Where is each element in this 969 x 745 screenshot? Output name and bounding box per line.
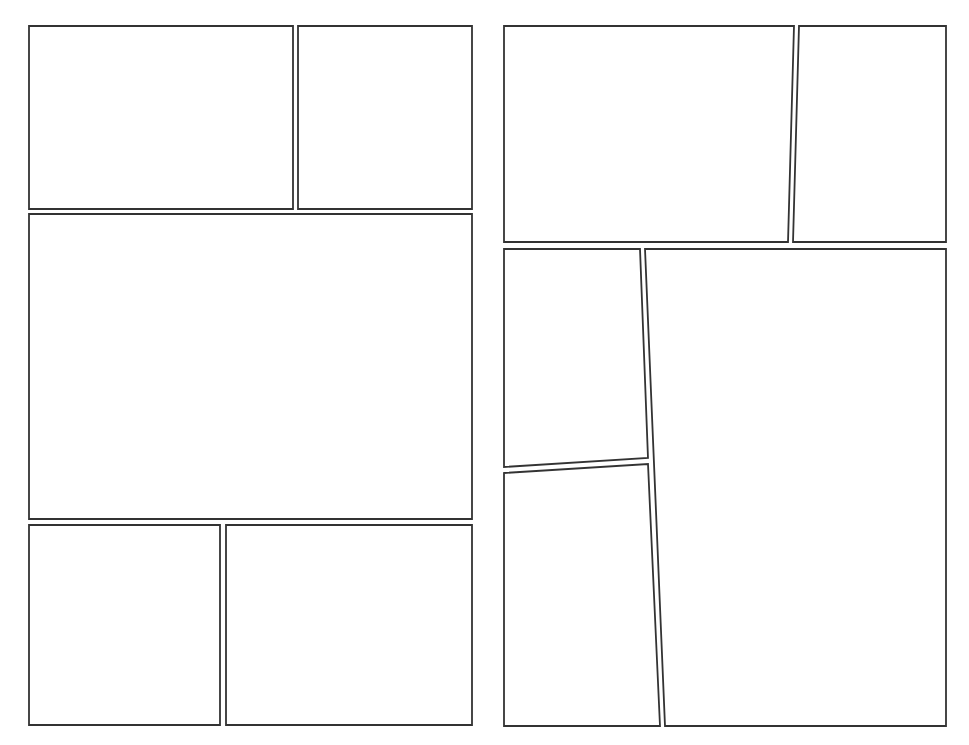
- panel-left-1[interactable]: [29, 26, 293, 209]
- right-page: [504, 26, 946, 726]
- panel-left-2[interactable]: [298, 26, 472, 209]
- panel-right-5[interactable]: [645, 249, 946, 726]
- panel-right-2[interactable]: [793, 26, 946, 242]
- panel-left-4[interactable]: [29, 525, 220, 725]
- left-page: [29, 26, 472, 725]
- panel-right-3[interactable]: [504, 249, 648, 467]
- comic-template-sheet: [0, 0, 969, 745]
- panel-left-5[interactable]: [226, 525, 472, 725]
- panel-right-4[interactable]: [504, 464, 660, 726]
- panel-right-1[interactable]: [504, 26, 794, 242]
- panel-left-3[interactable]: [29, 214, 472, 519]
